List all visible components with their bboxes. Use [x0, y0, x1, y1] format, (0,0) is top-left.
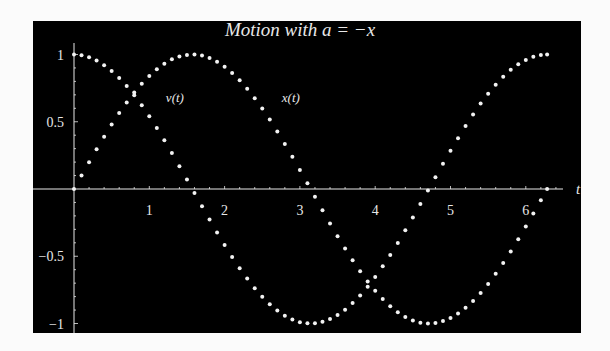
data-point — [403, 228, 407, 232]
x-tick-label: 3 — [296, 203, 303, 218]
data-point — [358, 293, 362, 297]
data-point — [72, 53, 76, 57]
data-point — [275, 309, 279, 313]
data-point — [102, 63, 106, 67]
data-point — [110, 69, 114, 73]
data-point — [531, 211, 535, 215]
x-tick-label: 2 — [221, 203, 228, 218]
data-point — [351, 301, 355, 305]
data-point — [411, 319, 415, 323]
data-point — [117, 76, 121, 80]
data-point — [290, 155, 294, 159]
data-point — [170, 57, 174, 61]
data-point — [531, 55, 535, 59]
data-point — [449, 316, 453, 320]
data-point — [177, 55, 181, 59]
data-point — [87, 160, 91, 164]
data-point — [539, 198, 543, 202]
data-point — [418, 321, 422, 325]
data-point — [396, 241, 400, 245]
data-point — [313, 195, 317, 199]
data-point — [305, 321, 309, 325]
data-point — [441, 319, 445, 323]
data-point — [95, 147, 99, 151]
data-point — [411, 215, 415, 219]
data-point — [381, 264, 385, 268]
data-point — [545, 53, 549, 57]
data-point — [215, 230, 219, 234]
data-point — [147, 114, 151, 118]
data-point — [230, 71, 234, 75]
data-point — [516, 237, 520, 241]
data-point — [501, 261, 505, 265]
data-point — [456, 312, 460, 316]
data-point — [283, 314, 287, 318]
data-point — [320, 208, 324, 212]
data-point — [80, 53, 84, 57]
data-point — [215, 60, 219, 64]
data-point — [238, 266, 242, 270]
curve-label: x(t) — [281, 90, 300, 105]
data-point — [381, 297, 385, 301]
x-tick-label: 5 — [447, 203, 454, 218]
data-point — [509, 250, 513, 254]
data-point — [245, 87, 249, 91]
data-point — [486, 92, 490, 96]
x-tick-label: 4 — [372, 203, 379, 218]
data-point — [87, 55, 91, 59]
plot-area: Motion with a = −x 12345610.5−0.5−1 v(t)… — [33, 21, 581, 333]
data-point — [140, 82, 144, 86]
data-point — [147, 74, 151, 78]
data-point — [140, 103, 144, 107]
data-point — [177, 164, 181, 168]
data-point — [245, 277, 249, 281]
data-point — [185, 177, 189, 181]
data-point — [185, 53, 189, 57]
data-point — [479, 291, 483, 295]
data-point — [524, 225, 528, 229]
data-point — [351, 258, 355, 262]
data-point — [260, 295, 264, 299]
data-point — [373, 275, 377, 279]
data-point — [358, 269, 362, 273]
data-point — [268, 302, 272, 306]
data-point — [343, 308, 347, 312]
data-point — [72, 187, 76, 191]
data-point — [155, 67, 159, 71]
data-point — [471, 112, 475, 116]
data-point — [125, 100, 129, 104]
data-point — [449, 149, 453, 153]
data-point — [298, 168, 302, 172]
chart-title: Motion with a = −x — [224, 21, 376, 40]
data-point — [418, 202, 422, 206]
data-point — [433, 321, 437, 325]
data-point — [192, 53, 196, 57]
data-point — [290, 318, 294, 322]
data-point — [524, 58, 528, 62]
data-point — [501, 75, 505, 79]
data-point — [336, 313, 340, 317]
data-point — [192, 191, 196, 195]
data-point — [441, 162, 445, 166]
data-point — [162, 62, 166, 66]
data-point — [223, 243, 227, 247]
data-point — [260, 107, 264, 111]
y-tick-label: −1 — [49, 317, 64, 332]
data-point — [336, 234, 340, 238]
data-point — [117, 111, 121, 115]
data-point — [433, 175, 437, 179]
data-point — [275, 130, 279, 134]
data-point — [110, 123, 114, 127]
data-point — [479, 102, 483, 106]
axes — [33, 43, 563, 333]
data-point — [80, 174, 84, 178]
data-point — [125, 84, 129, 88]
data-point — [486, 282, 490, 286]
data-point — [403, 315, 407, 319]
data-point — [494, 272, 498, 276]
data-point — [162, 138, 166, 142]
data-point — [328, 317, 332, 321]
data-point — [366, 280, 370, 284]
data-point — [208, 56, 212, 60]
data-point — [494, 83, 498, 87]
